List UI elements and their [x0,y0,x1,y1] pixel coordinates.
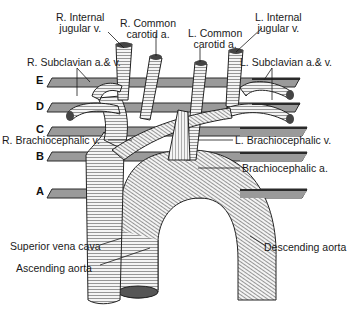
label-r-common-carotid: R. Common carotid a. [120,18,176,40]
label-l-subclavian: L. Subclavian a.& v. [240,57,332,68]
label-r-brachiocephalic-v: R. Brachiocephalic v. [2,135,100,146]
label-ascending-aorta: Ascending aorta [16,263,92,274]
label-r-internal-jugular: R. Internal jugular v. [56,12,104,34]
plane-label-d: D [36,100,44,112]
label-l-common-carotid: L. Common carotid a. [188,28,242,50]
label-l-brachiocephalic-v: L. Brachiocephalic v. [235,135,331,146]
plane-label-e: E [36,74,43,86]
label-superior-vena-cava: Superior vena cava [10,241,100,252]
label-l-internal-jugular: L. Internal jugular v. [255,12,302,34]
superior-vena-cava [86,132,124,304]
plane-label-a: A [36,185,44,197]
label-brachiocephalic-a: Brachiocephalic a. [242,163,328,174]
label-descending-aorta: Descending aorta [264,242,346,253]
plane-label-b: B [36,150,44,162]
label-r-subclavian: R. Subclavian a.& v. [27,57,121,68]
